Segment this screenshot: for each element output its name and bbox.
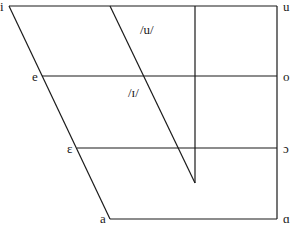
phoneme-label-small-cap-i: /ɪ/ [128, 85, 139, 100]
vowel-label-open-o: ɔ [283, 141, 289, 156]
vowel-label-epsilon: ε [67, 141, 73, 156]
vowel-label-e: e [32, 69, 38, 84]
vowel-label-i: i [0, 0, 4, 14]
vowel-label-u: u [283, 0, 290, 14]
vowel-label-o: o [283, 69, 290, 84]
vowel-chart: i e ε a u o ɔ ɑ /u/ /ɪ/ [0, 0, 296, 226]
left-edge-front [9, 6, 110, 219]
vowel-label-a: a [100, 211, 106, 226]
vowel-label-script-a: ɑ [283, 211, 290, 226]
phoneme-label-u: /u/ [140, 22, 154, 37]
